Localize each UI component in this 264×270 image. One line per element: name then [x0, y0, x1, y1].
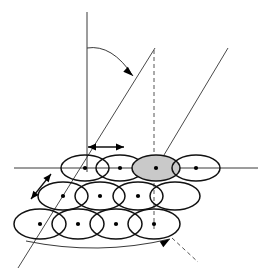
swath-width-arc-path [26, 239, 170, 248]
footprint-cell-3-2-center-dot [76, 222, 80, 226]
footprint-cell-1-3-center-dot [154, 166, 158, 170]
swath-width-arc [26, 239, 170, 248]
footprint-trace-dashed [172, 238, 198, 262]
incidence-angle-arrowhead [123, 67, 133, 76]
scan-ray-right [155, 48, 228, 170]
incidence-angle-arc [87, 48, 133, 76]
footprint-cell-2-3-center-dot [136, 194, 140, 198]
figure-canvas [0, 0, 264, 270]
along-track-spacing-arrow-head-end [116, 144, 124, 151]
footprint-cell-3-3-center-dot [114, 222, 118, 226]
swath-width-arrowhead [160, 239, 170, 247]
footprint-cell-1-4-center-dot [194, 166, 198, 170]
diagram-svg [0, 0, 264, 270]
footprint-cell-3-1-center-dot [38, 222, 42, 226]
footprint-row-1 [61, 155, 220, 181]
ray-group [18, 48, 228, 268]
footprint-cell-1-1-center-dot [83, 166, 87, 170]
footprint-cell-2-2-center-dot [98, 194, 102, 198]
footprint-cell-2-1-center-dot [61, 194, 65, 198]
footprint-cell-2-4 [150, 182, 200, 210]
footprint-cell-1-2-center-dot [118, 166, 122, 170]
footprint-cell-3-4-center-dot [152, 222, 156, 226]
cross-track-spacing-arrow [31, 174, 51, 199]
footprint-row-2 [38, 182, 200, 210]
along-track-spacing-arrow [88, 144, 124, 151]
